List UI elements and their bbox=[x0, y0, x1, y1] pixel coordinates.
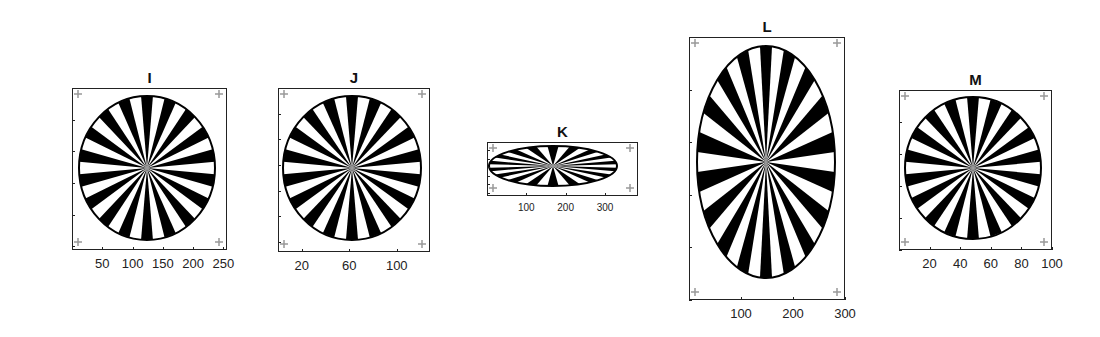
x-tick-mark bbox=[741, 297, 742, 300]
y-tick-mark bbox=[72, 215, 75, 216]
x-tick-mark bbox=[102, 247, 103, 250]
x-tick-mark bbox=[566, 193, 567, 196]
y-tick-mark bbox=[72, 183, 75, 184]
siemens-star-image bbox=[72, 88, 227, 250]
x-tick-mark bbox=[163, 247, 164, 250]
y-tick-mark bbox=[487, 176, 490, 177]
y-tick-mark bbox=[689, 195, 692, 196]
x-tick-mark bbox=[1052, 247, 1053, 250]
y-tick-mark bbox=[278, 191, 281, 192]
y-tick-mark bbox=[278, 216, 281, 217]
x-tick-mark bbox=[349, 249, 350, 252]
x-tick-label: 200 bbox=[782, 306, 804, 321]
y-tick-mark bbox=[899, 122, 902, 123]
x-tick-label: 20 bbox=[922, 256, 936, 271]
y-tick-mark bbox=[899, 218, 902, 219]
x-tick-label: 100 bbox=[386, 258, 408, 273]
x-tick-label: 300 bbox=[597, 202, 614, 213]
panel-title: J bbox=[278, 69, 430, 86]
panel-title: I bbox=[72, 69, 227, 86]
x-tick-mark bbox=[845, 297, 846, 300]
x-tick-label: 300 bbox=[834, 306, 856, 321]
x-tick-mark bbox=[793, 297, 794, 300]
x-tick-mark bbox=[1021, 247, 1022, 250]
x-tick-label: 20 bbox=[295, 258, 309, 273]
y-tick-mark bbox=[278, 114, 281, 115]
x-tick-mark bbox=[930, 247, 931, 250]
siemens-star-image bbox=[487, 142, 638, 196]
panel-title: M bbox=[899, 71, 1052, 88]
x-tick-mark bbox=[991, 247, 992, 250]
x-tick-label: 100 bbox=[122, 256, 144, 271]
y-tick-mark bbox=[689, 90, 692, 91]
y-tick-mark bbox=[899, 250, 902, 251]
x-tick-label: 150 bbox=[152, 256, 174, 271]
x-tick-label: 200 bbox=[182, 256, 204, 271]
x-tick-label: 40 bbox=[953, 256, 967, 271]
y-tick-mark bbox=[689, 247, 692, 248]
x-tick-mark bbox=[223, 247, 224, 250]
x-tick-label: 200 bbox=[557, 202, 574, 213]
siemens-star-image bbox=[689, 37, 845, 300]
y-tick-mark bbox=[689, 142, 692, 143]
siemens-star-image bbox=[899, 90, 1052, 250]
x-tick-label: 60 bbox=[984, 256, 998, 271]
y-tick-mark bbox=[278, 139, 281, 140]
x-tick-label: 60 bbox=[342, 258, 356, 273]
panel-title: L bbox=[689, 18, 845, 35]
x-tick-mark bbox=[302, 249, 303, 252]
y-tick-mark bbox=[72, 120, 75, 121]
x-tick-label: 50 bbox=[95, 256, 109, 271]
y-tick-mark bbox=[487, 159, 490, 160]
x-tick-label: 100 bbox=[730, 306, 752, 321]
y-tick-mark bbox=[72, 246, 75, 247]
y-tick-mark bbox=[487, 184, 490, 185]
x-tick-label: 100 bbox=[518, 202, 535, 213]
y-tick-mark bbox=[899, 186, 902, 187]
x-tick-mark bbox=[526, 193, 527, 196]
x-tick-mark bbox=[960, 247, 961, 250]
x-tick-mark bbox=[397, 249, 398, 252]
y-tick-mark bbox=[487, 167, 490, 168]
x-tick-label: 80 bbox=[1014, 256, 1028, 271]
x-tick-mark bbox=[605, 193, 606, 196]
x-tick-mark bbox=[193, 247, 194, 250]
y-tick-mark bbox=[278, 242, 281, 243]
x-tick-label: 100 bbox=[1041, 256, 1063, 271]
x-tick-label: 250 bbox=[213, 256, 235, 271]
panel-title: K bbox=[487, 123, 638, 140]
y-tick-mark bbox=[899, 154, 902, 155]
siemens-star-image bbox=[278, 88, 430, 252]
x-tick-mark bbox=[133, 247, 134, 250]
y-tick-mark bbox=[72, 151, 75, 152]
y-tick-mark bbox=[689, 300, 692, 301]
y-tick-mark bbox=[278, 165, 281, 166]
y-tick-mark bbox=[487, 193, 490, 194]
y-tick-mark bbox=[487, 150, 490, 151]
